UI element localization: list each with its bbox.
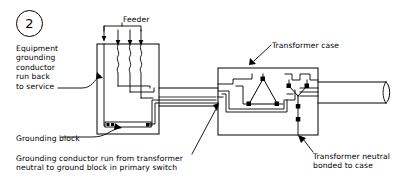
- label-transformer-neutral-bonded: Transformer neutral bonded to case: [313, 152, 390, 171]
- leader-ground-run: [192, 103, 219, 154]
- transformer-case: [218, 68, 318, 135]
- secondary-phase-leads: [300, 88, 318, 96]
- label-feeder: Feeder: [123, 15, 150, 24]
- leader-neutral-bonded: [298, 135, 313, 152]
- fuse-elements: [117, 45, 141, 98]
- leader-transformer-case: [249, 45, 271, 65]
- label-equipment-grounding-conductor: Equipment grounding conductor run back t…: [16, 44, 58, 91]
- label-transformer-case: Transformer case: [272, 41, 339, 50]
- feeder-conductor-arrows: [102, 26, 144, 46]
- wye-lead-routing: [285, 74, 318, 119]
- primary-switch-enclosure: [97, 44, 159, 134]
- secondary-cable: [318, 82, 390, 103]
- label-grounding-block: Grounding block: [16, 134, 80, 143]
- diagram-page: 2: [0, 0, 403, 188]
- leader-equipment-ground: [58, 72, 103, 88]
- grounding-block: [105, 122, 151, 127]
- delta-lead-routing: [218, 74, 287, 112]
- phase-conductors-to-conduit: [118, 86, 154, 98]
- neutral-bond-point: [296, 117, 301, 135]
- delta-winding: [247, 77, 280, 107]
- label-grounding-conductor-run: Grounding conductor run from transformer…: [16, 154, 183, 173]
